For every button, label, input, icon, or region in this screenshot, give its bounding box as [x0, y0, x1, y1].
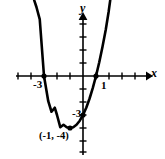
y-axis-label: y [80, 2, 85, 14]
vertex-label: (-1, -4) [39, 131, 69, 142]
y-intercept-label: -3 [72, 108, 81, 119]
x-axis-label: x [151, 67, 157, 79]
parabola-graph-figure: -3 1 -3 (-1, -4) x y [0, 0, 165, 159]
point-x-intercept-left [41, 73, 46, 78]
point-y-intercept [80, 112, 85, 117]
graph-canvas [0, 0, 165, 159]
x-intercept-right-label: 1 [101, 80, 107, 91]
x-intercept-left-label: -3 [33, 79, 42, 90]
point-x-intercept-right [93, 73, 98, 78]
